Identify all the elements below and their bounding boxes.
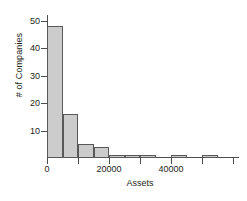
x-tick-mark (202, 158, 203, 164)
histogram-bar (47, 26, 63, 158)
histogram-bar (94, 147, 110, 158)
x-tick-mark (140, 158, 141, 164)
histogram-bar (171, 155, 187, 158)
y-tick-label: 30 (16, 72, 40, 81)
histogram-bar (140, 155, 156, 158)
histogram-bar (109, 155, 125, 158)
y-tick-label: 20 (16, 99, 40, 108)
y-tick-label: 40 (16, 44, 40, 53)
histogram-bar (125, 155, 141, 158)
x-tick-mark (78, 158, 79, 164)
histogram-bar (63, 114, 79, 158)
histogram-bar (78, 144, 94, 158)
x-tick-mark (233, 158, 234, 164)
histogram-bar (202, 155, 218, 158)
y-tick-label: 50 (16, 17, 40, 26)
histogram-chart: # of Companies 1020304050 02000040000 As… (0, 0, 247, 201)
x-axis-title: Assets (47, 178, 233, 188)
x-tick-label: 40000 (141, 165, 201, 174)
plot-area (47, 15, 233, 158)
x-tick-label: 0 (17, 165, 77, 174)
x-tick-label: 20000 (79, 165, 139, 174)
y-tick-label: 10 (16, 127, 40, 136)
